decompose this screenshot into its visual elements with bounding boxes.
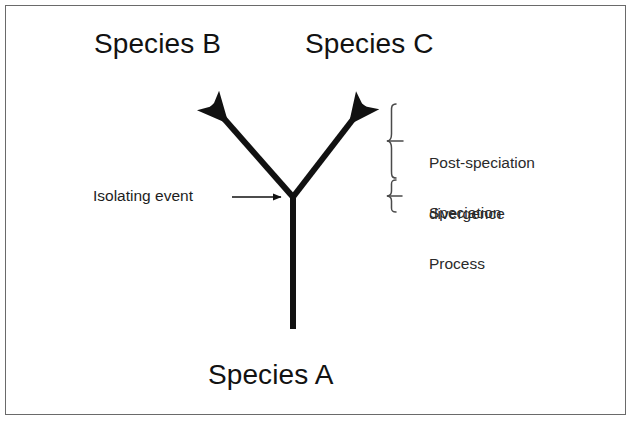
label-speciation-line2: Process — [429, 256, 501, 273]
label-species-b: Species B — [94, 29, 221, 59]
speciation-diagram-figure: Species B Species C Species A Isolating … — [0, 0, 633, 429]
label-species-c: Species C — [305, 29, 434, 59]
label-post-speciation-line1: Post-speciation — [429, 155, 535, 172]
label-speciation-process: Speciation Process — [429, 172, 501, 306]
label-speciation-line1: Speciation — [429, 205, 501, 222]
branch-species-b — [212, 105, 293, 197]
branch-species-c — [293, 105, 364, 197]
label-species-a: Species A — [208, 360, 333, 390]
label-isolating-event: Isolating event — [93, 188, 193, 205]
